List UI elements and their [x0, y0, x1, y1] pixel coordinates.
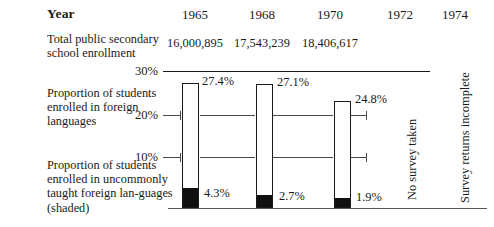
- gridline-20-percent-segment-2: [272, 115, 333, 116]
- bar-1965[interactable]: [182, 83, 199, 208]
- year-row-label: Year: [47, 6, 75, 22]
- gridline-30-percent: [163, 71, 430, 72]
- year-header-1974: 1974: [420, 7, 490, 23]
- bar-1965-total-label: 27.4%: [202, 74, 234, 89]
- year-header-1968: 1968: [227, 7, 297, 23]
- gridline-20-percent-segment-1: [200, 115, 255, 116]
- enrollment-value-1970: 18,406,617: [290, 36, 370, 51]
- bar-1970[interactable]: [334, 101, 351, 208]
- chart-baseline: [168, 208, 487, 209]
- bar-1968[interactable]: [256, 84, 273, 208]
- legend-description-uncommonly-taught: Proportion of students enrolled in uncom…: [47, 158, 195, 215]
- note-no-survey-taken: No survey taken: [405, 119, 420, 200]
- bar-1970-total-label: 24.8%: [355, 92, 387, 107]
- gridline-10-percent-segment-2: [272, 157, 333, 158]
- bar-1965-shaded-segment: [183, 188, 198, 207]
- bar-1970-shaded-segment: [335, 198, 350, 207]
- bar-1968-total-label: 27.1%: [277, 75, 309, 90]
- note-survey-returns-incomplete: Survey returns incomplete: [458, 72, 473, 203]
- gridline-10-percent-stub-right: [350, 157, 367, 158]
- gridline-20-tick-right: [366, 111, 367, 120]
- gridline-10-tick-right: [366, 153, 367, 162]
- y-axis-tick-20: 20%: [112, 108, 158, 123]
- year-header-1970: 1970: [295, 7, 365, 23]
- gridline-20-tick-left: [180, 111, 181, 120]
- year-header-1965: 1965: [160, 7, 230, 23]
- gridline-20-percent-stub-left: [163, 115, 180, 116]
- gridline-10-percent-segment-1: [200, 157, 255, 158]
- bar-1970-shaded-label: 1.9%: [356, 190, 382, 205]
- gridline-20-percent-stub-right: [350, 115, 367, 116]
- y-axis-tick-10: 10%: [112, 150, 158, 165]
- bar-1968-shaded-segment: [257, 195, 272, 207]
- bar-1968-shaded-label: 2.7%: [279, 189, 305, 204]
- y-axis-tick-30: 30%: [112, 64, 158, 79]
- bar-1965-shaded-label: 4.3%: [204, 186, 230, 201]
- gridline-10-percent-stub-left: [163, 157, 180, 158]
- gridline-10-tick-left: [180, 153, 181, 162]
